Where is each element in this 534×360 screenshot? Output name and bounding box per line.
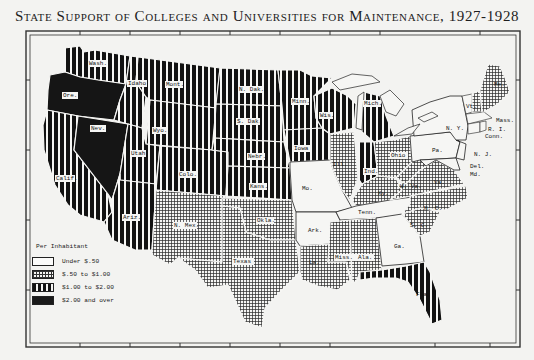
svg-text:N. C.: N. C.: [424, 205, 442, 212]
svg-text:W. Va.: W. Va.: [400, 183, 422, 190]
legend-label: $2.00 and over: [62, 297, 114, 304]
svg-text:R. I.: R. I.: [488, 126, 506, 133]
svg-text:Wis.: Wis.: [320, 112, 334, 119]
svg-text:N. Mex.: N. Mex.: [174, 222, 199, 229]
blank-swatch-icon: [32, 257, 54, 266]
svg-text:Nebr.: Nebr.: [248, 153, 266, 160]
svg-text:Okla.: Okla.: [257, 217, 275, 224]
svg-text:Colo.: Colo.: [179, 171, 197, 178]
state-me[interactable]: [480, 64, 510, 112]
svg-text:Mo.: Mo.: [302, 185, 313, 192]
legend-label: $.50 to $1.00: [62, 271, 110, 278]
state-wyo[interactable]: [146, 100, 216, 150]
state-ri[interactable]: [480, 121, 486, 132]
svg-text:Ark.: Ark.: [308, 227, 322, 234]
svg-text:Mass.: Mass.: [496, 117, 514, 124]
legend-item-200-plus: $2.00 and over: [32, 294, 132, 307]
solid-swatch-icon: [32, 296, 54, 305]
legend: Per Inhabitant Under $.50 $.50 to $1.00 …: [32, 243, 132, 307]
svg-text:N. J.: N. J.: [474, 151, 492, 158]
svg-text:Ky.: Ky.: [378, 190, 389, 197]
svg-text:Pa.: Pa.: [432, 147, 443, 154]
svg-text:Ill.: Ill.: [333, 161, 347, 168]
legend-item-50-to-100: $.50 to $1.00: [32, 268, 132, 281]
svg-text:Idaho: Idaho: [128, 80, 146, 87]
svg-text:N. Dak.: N. Dak.: [239, 86, 264, 93]
svg-text:Conn.: Conn.: [485, 133, 503, 140]
svg-text:Miss.: Miss.: [335, 254, 353, 261]
svg-text:Va.: Va.: [434, 179, 445, 186]
svg-text:Ore.: Ore.: [63, 92, 77, 99]
legend-label: Under $.50: [62, 258, 99, 265]
crosshatch-swatch-icon: [32, 270, 54, 279]
svg-text:N. Y.: N. Y.: [446, 125, 464, 132]
svg-text:Me.: Me.: [494, 81, 505, 88]
svg-text:Texas: Texas: [233, 258, 251, 265]
svg-text:Tenn.: Tenn.: [358, 209, 376, 216]
svg-text:Ohio: Ohio: [391, 152, 406, 159]
legend-item-100-to-200: $1.00 to $2.00: [32, 281, 132, 294]
svg-text:Utah: Utah: [131, 150, 146, 157]
svg-text:Wash.: Wash.: [89, 60, 107, 67]
svg-text:Mich.: Mich.: [364, 100, 382, 107]
svg-text:Vt.: Vt.: [466, 103, 477, 110]
svg-text:Fla.: Fla.: [416, 291, 430, 298]
state-conn[interactable]: [468, 122, 480, 134]
stripe-swatch-icon: [32, 283, 54, 292]
svg-text:Kans.: Kans.: [250, 183, 268, 190]
svg-text:Ga.: Ga.: [394, 243, 405, 250]
svg-text:Ariz.: Ariz.: [123, 214, 141, 221]
legend-label: $1.00 to $2.00: [62, 284, 114, 291]
legend-item-under-50: Under $.50: [32, 255, 132, 268]
svg-text:Minn.: Minn.: [292, 98, 310, 105]
svg-text:Iowa: Iowa: [294, 145, 309, 152]
svg-text:Mont.: Mont.: [166, 81, 184, 88]
svg-text:Wyo.: Wyo.: [153, 127, 167, 134]
svg-text:Ind.: Ind.: [364, 168, 378, 175]
svg-text:Md.: Md.: [470, 171, 481, 178]
svg-text:Ala.: Ala.: [358, 254, 372, 261]
svg-text:S. C.: S. C.: [410, 222, 428, 229]
svg-text:S. Dak.: S. Dak.: [237, 118, 262, 125]
legend-heading: Per Inhabitant: [36, 243, 132, 250]
svg-text:La.: La.: [309, 259, 320, 266]
svg-text:Nev.: Nev.: [91, 125, 105, 132]
svg-text:Calif.: Calif.: [56, 175, 78, 182]
svg-text:Del.: Del.: [470, 163, 484, 170]
